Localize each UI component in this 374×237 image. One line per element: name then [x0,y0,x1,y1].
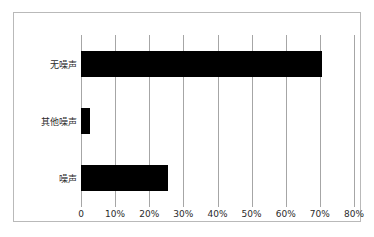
bar [81,51,322,77]
gridline-80 [354,35,355,207]
category-label: 其他噪声 [21,115,77,128]
plot-area [81,35,354,207]
x-tick-label: 0 [78,209,84,219]
x-tick-label: 40% [207,209,227,219]
x-tick-label: 50% [242,209,262,219]
bar [81,165,168,191]
bar [81,108,90,134]
x-tick-label: 10% [105,209,125,219]
x-tick-label: 20% [139,209,159,219]
category-label: 无噪声 [21,58,77,71]
figure-frame: 无噪声其他噪声噪声 010%20%30%40%50%60%70%80% [13,12,361,222]
value-axis-tick-labels: 010%20%30%40%50%60%70%80% [81,209,354,227]
x-tick-label: 60% [276,209,296,219]
x-tick-label: 70% [310,209,330,219]
x-tick-label: 80% [344,209,364,219]
category-label: 噪声 [21,172,77,185]
x-tick-label: 30% [173,209,193,219]
bar-chart-figure: 无噪声其他噪声噪声 010%20%30%40%50%60%70%80% [0,0,374,237]
category-axis-labels: 无噪声其他噪声噪声 [19,35,77,207]
